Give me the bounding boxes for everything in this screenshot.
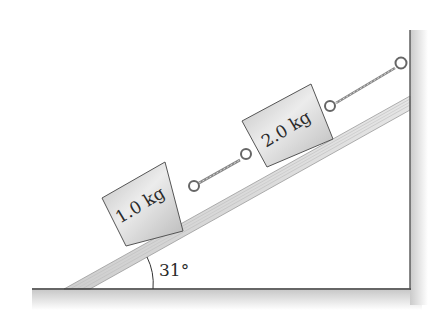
angle-label: 31° <box>159 260 189 280</box>
eye-bolt <box>241 149 251 159</box>
angle-arc <box>147 257 153 289</box>
eye-bolt <box>396 58 407 69</box>
ground-shadow <box>32 290 422 310</box>
block-1: 1.0 kg <box>102 162 183 246</box>
rope-1 <box>189 149 251 191</box>
eye-bolt <box>189 181 199 191</box>
eye-bolt <box>325 101 335 111</box>
rope-2 <box>325 58 407 112</box>
wall-shadow <box>410 30 428 305</box>
incline-diagram: 31° 1.0 kg 2.0 kg <box>0 0 447 317</box>
